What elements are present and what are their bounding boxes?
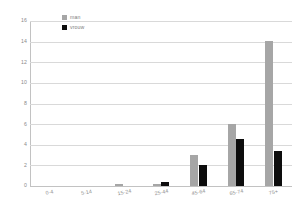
- x-tick-label: 65-74: [220, 187, 252, 199]
- x-axis-tick-labels: 0-45-1415-2425-4445-6465-7475+: [30, 190, 292, 208]
- bar-group: [78, 21, 95, 186]
- vrouw-swatch-icon: [62, 25, 67, 30]
- chart-legend: man vrouw: [62, 13, 114, 33]
- plot-area: [30, 21, 292, 186]
- y-tick-label: 12: [3, 60, 27, 65]
- y-tick-label: 10: [3, 80, 27, 85]
- x-tick-label: 45-64: [183, 187, 215, 199]
- bar-group: [153, 21, 170, 186]
- y-tick-label: 4: [3, 142, 27, 147]
- bar-group: [265, 21, 282, 186]
- y-axis-tick-labels: 0246810121416: [0, 0, 27, 215]
- bar-group: [115, 21, 132, 186]
- legend-item-vrouw: vrouw: [62, 23, 114, 32]
- bar-man-65-74: [228, 124, 236, 186]
- y-tick-label: 8: [3, 101, 27, 106]
- x-tick-label: 75+: [258, 187, 290, 199]
- legend-label-vrouw: vrouw: [70, 25, 84, 30]
- bar-man-15-24: [115, 184, 123, 186]
- gridline: [30, 186, 292, 187]
- bar-group: [228, 21, 245, 186]
- x-tick-label: 5-14: [70, 187, 102, 199]
- y-tick-label: 16: [3, 18, 27, 23]
- x-tick-label: 0-4: [33, 187, 65, 199]
- bar-vrouw-75+: [274, 151, 282, 186]
- bar-group: [40, 21, 57, 186]
- legend-label-man: man: [70, 15, 80, 20]
- bar-group: [190, 21, 207, 186]
- y-tick-label: 14: [3, 39, 27, 44]
- bar-man-25-44: [153, 184, 161, 186]
- bar-man-45-64: [190, 155, 198, 186]
- legend-item-man: man: [62, 13, 114, 22]
- x-tick-label: 25-44: [145, 187, 177, 199]
- bar-vrouw-45-64: [199, 165, 207, 186]
- x-tick-label: 15-24: [108, 187, 140, 199]
- bar-vrouw-65-74: [236, 139, 244, 186]
- bar-man-75+: [265, 41, 273, 186]
- bar-chart: 0246810121416 0-45-1415-2425-4445-6465-7…: [0, 0, 302, 215]
- y-tick-label: 0: [3, 183, 27, 188]
- bar-vrouw-25-44: [161, 182, 169, 186]
- y-tick-label: 2: [3, 163, 27, 168]
- y-tick-label: 6: [3, 122, 27, 127]
- man-swatch-icon: [62, 15, 67, 20]
